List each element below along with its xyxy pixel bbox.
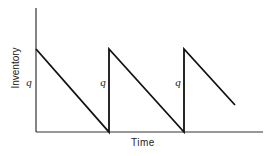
cycle-quantity-label: q — [175, 76, 181, 88]
cycle-quantity-label: q — [26, 76, 32, 88]
y-axis-label: Inventory — [10, 47, 21, 88]
cycle-quantity-label: q — [100, 76, 106, 88]
inventory-sawtooth-line — [36, 49, 235, 132]
inventory-sawtooth-diagram: Inventory Time q q q — [0, 0, 273, 156]
x-axis-label: Time — [131, 137, 155, 148]
